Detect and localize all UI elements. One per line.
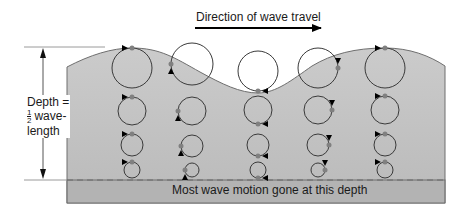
depth-arrow-up-icon <box>40 48 46 58</box>
depth-arrow-down-icon <box>40 169 46 179</box>
water-particle <box>176 109 181 114</box>
water-particle <box>383 94 388 99</box>
water-particle <box>130 95 135 100</box>
water-particle <box>323 168 328 173</box>
water-particle <box>383 160 388 165</box>
wave-orbital-diagram: Direction of wave travel Depth = 1 2 wav… <box>0 0 464 211</box>
water-particle <box>130 46 135 51</box>
orbit-circle <box>238 51 278 91</box>
depth-label: Depth = 1 2 wave- length <box>26 95 70 138</box>
water-particle <box>256 122 261 127</box>
water-particle <box>256 176 261 181</box>
water-particle <box>183 168 188 173</box>
depth-label-line3: length <box>27 124 69 138</box>
water-particle <box>383 46 388 51</box>
water-particle <box>130 160 135 165</box>
water-particle <box>330 108 335 113</box>
water-particle <box>169 62 174 67</box>
water-particle <box>256 154 261 159</box>
depth-label-line2: 1 2 wave- <box>27 109 69 124</box>
depth-label-line1: Depth = <box>27 95 69 109</box>
water-particle <box>130 132 135 137</box>
one-half-fraction: 1 2 <box>27 109 31 124</box>
water-particle <box>327 143 332 148</box>
direction-label: Direction of wave travel <box>196 11 321 24</box>
water-particle <box>383 132 388 137</box>
water-particle <box>179 144 184 149</box>
depth-limit-label: Most wave motion gone at this depth <box>172 184 367 197</box>
water-particle <box>336 66 341 71</box>
water-particle <box>256 89 261 94</box>
